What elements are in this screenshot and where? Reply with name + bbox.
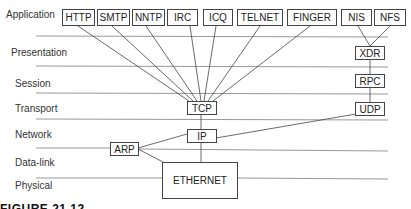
layer-transport: Transport [15, 103, 57, 114]
box-xdr: XDR [355, 46, 385, 60]
layer-application: Application [6, 9, 55, 20]
box-telnet: TELNET [237, 9, 283, 26]
layer-session: Session [15, 78, 51, 89]
figure-caption: FIGURE 21.12 [0, 202, 85, 209]
box-irc: IRC [167, 9, 198, 26]
box-icq: ICQ [203, 9, 233, 26]
box-http: HTTP [62, 9, 95, 26]
box-nis: NIS [341, 9, 372, 26]
box-finger: FINGER [287, 9, 337, 26]
box-rpc: RPC [355, 74, 385, 88]
box-ethernet: ETHERNET [162, 162, 238, 199]
box-nntp: NNTP [132, 9, 165, 26]
box-arp: ARP [110, 142, 139, 156]
layer-physical: Physical [15, 180, 52, 191]
box-udp: UDP [355, 102, 385, 116]
box-smtp: SMTP [97, 9, 130, 26]
layer-data-link: Data-link [15, 157, 54, 168]
box-ip: IP [187, 129, 217, 143]
layer-presentation: Presentation [11, 47, 67, 58]
box-nfs: NFS [374, 9, 406, 26]
layer-network: Network [15, 129, 52, 140]
box-tcp: TCP [187, 101, 217, 115]
